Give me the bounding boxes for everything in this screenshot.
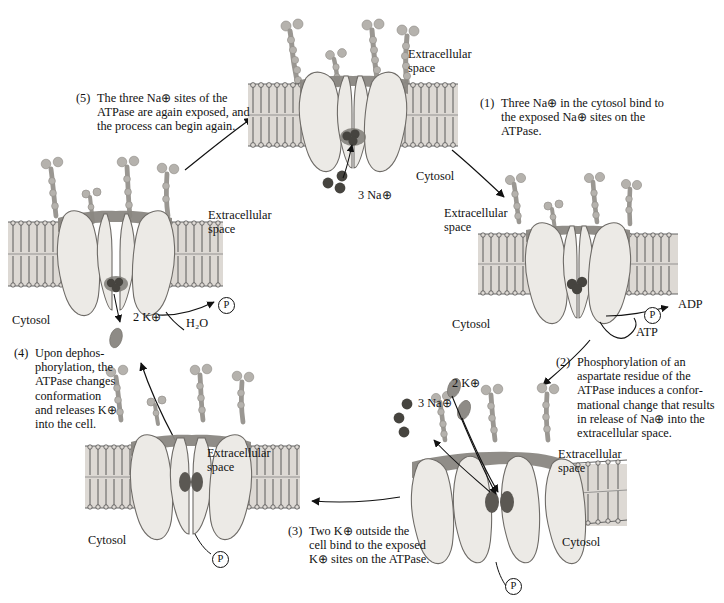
arrow-bottomright-to-bottomleft xyxy=(312,497,400,502)
caption-step5-number: (5) xyxy=(76,91,96,105)
figure-canvas: Extracellular space Cytosol 3 Na⊕ xyxy=(0,0,724,603)
panel-right-adp-label: ADP xyxy=(678,297,703,311)
bilayer-left xyxy=(8,221,64,287)
panel-left-k-label: 2 K⊕ xyxy=(133,310,161,324)
panel-bottomright-na-label: 3 Na⊕ xyxy=(418,396,452,410)
caption-step4-text: Upon dephos-phorylation, the ATPase chan… xyxy=(35,346,122,431)
panel-right-atp-label: ATP xyxy=(636,325,658,339)
caption-step2-text: Phosphorylation of an aspartate residue … xyxy=(577,355,724,440)
na-binding-sites xyxy=(340,128,366,146)
panel-left-water-label: H₂O xyxy=(186,316,208,330)
panel-right-cytosol-label: Cytosol xyxy=(452,317,490,331)
panel-left-extracellular-label: Extracellular space xyxy=(208,208,272,236)
caption-step3: (3) Two K⊕ outside the cell bind to the … xyxy=(288,524,430,567)
caption-step3-text: Two K⊕ outside the cell bind to the expo… xyxy=(309,524,430,567)
caption-step3-number: (3) xyxy=(288,524,308,538)
panel-left-cytosol-label: Cytosol xyxy=(12,313,50,327)
panel-bottomleft-phosphate-icon: P xyxy=(212,551,229,568)
panel-bottomleft-cytosol-label: Cytosol xyxy=(88,533,126,547)
k-occluded-sites xyxy=(179,472,203,492)
panel-top xyxy=(248,18,458,193)
k-binding-sites xyxy=(485,491,514,513)
panel-bottomright-phosphate-icon: P xyxy=(505,578,522,595)
panel-right-extracellular-label: Extracellular space xyxy=(444,206,508,234)
caption-step1: (1) Three Na⊕ in the cytosol bind to the… xyxy=(480,96,676,139)
panel-bottomright-extracellular-label: Extracellular space xyxy=(558,447,622,475)
caption-step5: (5) The three Na⊕ sites of the ATPase ar… xyxy=(76,91,266,134)
bilayer-left xyxy=(85,445,137,509)
caption-step2: (2) Phosphorylation of an aspartate resi… xyxy=(556,355,724,440)
panel-bottom-right xyxy=(412,420,627,580)
caption-step1-number: (1) xyxy=(480,96,500,110)
caption-step2-number: (2) xyxy=(556,355,576,369)
panel-top-extracellular-label: Extracellular space xyxy=(408,47,472,75)
panel-left-phosphate-icon: P xyxy=(218,297,235,314)
caption-step4-number: (4) xyxy=(14,346,34,360)
caption-step4: (4) Upon dephos-phorylation, the ATPase … xyxy=(14,346,122,431)
panel-left xyxy=(8,170,223,330)
caption-step5-text: The three Na⊕ sites of the ATPase are ag… xyxy=(97,91,266,134)
panel-top-na-label: 3 Na⊕ xyxy=(358,188,392,202)
atpase-subunits xyxy=(299,72,406,171)
bilayer-right xyxy=(400,83,458,148)
panel-bottomright-cytosol-label: Cytosol xyxy=(562,535,600,549)
arrow-top-to-right xyxy=(452,150,504,197)
caption-step1-text: Three Na⊕ in the cytosol bind to the exp… xyxy=(501,96,676,139)
panel-right-phosphate-icon: P xyxy=(644,307,661,324)
panel-bottomright-k-label: 2 K⊕ xyxy=(452,376,480,390)
panel-bottomleft-extracellular-label: Extracellular space xyxy=(207,446,271,474)
bilayer-right xyxy=(624,233,678,295)
bilayer-left xyxy=(478,233,532,295)
panel-top-cytosol-label: Cytosol xyxy=(416,169,454,183)
